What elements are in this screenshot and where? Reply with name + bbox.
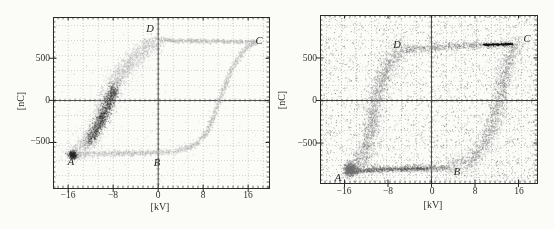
left-x-tick-neg16: −16 [61,190,76,200]
hysteresis-scatter-canvas [0,0,554,229]
left-x-tick-8: 8 [201,190,206,200]
right-x-axis-label: [kV] [424,199,443,210]
left-x-tick-16: 16 [243,190,253,200]
left-x-axis-label: [kV] [151,201,170,212]
right-x-tick-neg16: −16 [337,186,352,196]
left-corner-label-c: C [255,35,262,46]
right-y-tick-neg500: −500 [285,138,317,148]
left-y-tick-0: 0 [14,95,50,105]
left-y-tick-500: 500 [14,53,50,63]
left-corner-label-d: D [146,23,154,34]
right-x-tick-neg8: −8 [383,186,393,196]
left-corner-label-a: A [68,156,74,167]
left-x-tick-neg8: −8 [108,190,118,200]
right-x-tick-0: 0 [430,186,435,196]
right-corner-label-c: C [523,33,530,44]
hysteresis-figure: [nC] 500 0 −500 −16 −8 0 8 16 [kV] A B C… [0,0,554,229]
left-x-tick-0: 0 [156,190,161,200]
right-corner-label-d: D [393,39,401,50]
right-x-tick-8: 8 [473,186,478,196]
left-corner-label-b: B [154,157,160,168]
right-x-tick-16: 16 [514,186,524,196]
left-y-tick-neg500: −500 [14,136,50,146]
right-y-tick-500: 500 [285,53,317,63]
right-corner-label-a: A [335,172,341,183]
right-y-tick-0: 0 [285,95,317,105]
right-corner-label-b: B [454,166,460,177]
